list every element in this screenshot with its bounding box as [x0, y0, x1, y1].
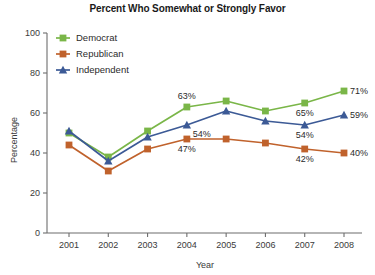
- data-point-marker: [341, 150, 348, 157]
- data-point-marker: [223, 98, 230, 105]
- data-label: 40%: [350, 148, 368, 158]
- legend-label: Independent: [76, 64, 129, 75]
- data-label: 42%: [296, 154, 314, 164]
- data-point-marker: [183, 136, 190, 143]
- x-tick-label: 2005: [216, 240, 236, 250]
- legend-label: Democrat: [76, 32, 118, 43]
- legend-marker: [60, 51, 67, 58]
- y-axis-label: Percentage: [9, 117, 19, 163]
- legend-item-republican[interactable]: Republican: [56, 48, 124, 59]
- data-point-marker: [262, 140, 269, 147]
- x-tick-label: 2007: [295, 240, 315, 250]
- data-point-marker: [262, 108, 269, 115]
- x-tick-label: 2006: [255, 240, 275, 250]
- legend-marker: [60, 35, 67, 42]
- data-point-marker: [66, 142, 73, 149]
- data-point-marker: [340, 111, 348, 119]
- chart-legend: DemocratRepublicanIndependent: [56, 32, 129, 75]
- y-axis-ticks: 020406080100: [25, 28, 47, 238]
- legend-item-independent[interactable]: Independent: [56, 64, 129, 75]
- y-tick-label: 0: [35, 228, 40, 238]
- data-point-marker: [144, 146, 151, 153]
- data-point-marker: [183, 104, 190, 111]
- x-tick-label: 2004: [177, 240, 197, 250]
- legend-label: Republican: [76, 48, 124, 59]
- y-tick-label: 40: [30, 148, 40, 158]
- data-label: 71%: [350, 86, 368, 96]
- x-tick-label: 2001: [59, 240, 79, 250]
- legend-item-democrat[interactable]: Democrat: [56, 32, 118, 43]
- data-label: 63%: [178, 91, 196, 101]
- x-axis-ticks: 20012002200320042005200620072008: [59, 233, 354, 250]
- data-point-marker: [301, 146, 308, 153]
- y-tick-label: 20: [30, 188, 40, 198]
- x-tick-label: 2008: [334, 240, 354, 250]
- x-axis-label: Year: [196, 260, 214, 270]
- chart-plot-area: 020406080100 200120022003200420052006200…: [0, 0, 375, 275]
- data-point-marker: [223, 136, 230, 143]
- data-label: 54%: [193, 129, 211, 139]
- data-point-marker: [341, 88, 348, 95]
- data-label: 59%: [350, 110, 368, 120]
- data-label: 65%: [296, 108, 314, 118]
- data-point-marker: [105, 168, 112, 175]
- y-tick-label: 60: [30, 108, 40, 118]
- data-point-marker: [222, 107, 230, 115]
- y-tick-label: 100: [25, 28, 40, 38]
- data-label: 54%: [296, 130, 314, 140]
- chart-container: Percent Who Somewhat or Strongly Favor 0…: [0, 0, 375, 275]
- x-tick-label: 2002: [98, 240, 118, 250]
- data-label: 47%: [178, 144, 196, 154]
- data-point-marker: [301, 100, 308, 107]
- y-tick-label: 80: [30, 68, 40, 78]
- x-tick-label: 2003: [138, 240, 158, 250]
